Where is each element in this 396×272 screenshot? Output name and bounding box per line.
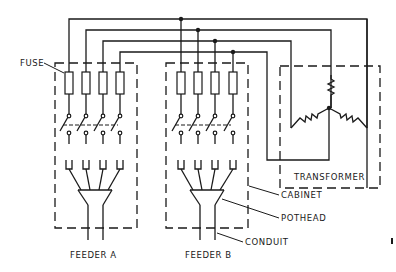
feeder-b-label: FEEDER B: [185, 250, 232, 260]
switch-group: [60, 114, 122, 144]
network-protector-diagram: FUSE TRANSFORMER CABINET POTHEAD CONDUIT…: [0, 0, 396, 272]
cable-lugs: [178, 160, 236, 190]
pothead: [190, 190, 224, 240]
feeder-b-cabinet: [166, 63, 248, 240]
switch-group: [172, 114, 235, 144]
cable-lugs: [66, 160, 123, 190]
fuse: [116, 72, 124, 94]
fuse: [194, 72, 202, 94]
fuse: [211, 72, 219, 94]
fuse: [229, 72, 237, 94]
fuse-label: FUSE: [20, 58, 44, 68]
pothead-label: POTHEAD: [281, 213, 326, 223]
margin-mark: [391, 238, 393, 244]
feeder-a-label: FEEDER A: [70, 250, 117, 260]
conduit-label: CONDUIT: [245, 237, 289, 247]
junction-dot: [213, 39, 217, 43]
transformer-label: TRANSFORMER: [293, 172, 365, 182]
junction-dot: [231, 50, 235, 54]
fuse: [82, 72, 90, 94]
neutral-dot: [327, 106, 331, 110]
pothead: [78, 190, 112, 240]
feeder-a-cabinet: [55, 63, 137, 240]
cabinet-label: CABINET: [281, 190, 322, 200]
junction-dot: [196, 28, 200, 32]
fuse: [99, 72, 107, 94]
fuse: [65, 72, 73, 94]
fuse: [177, 72, 185, 94]
transformer: [280, 19, 380, 188]
junction-dot: [179, 17, 183, 21]
